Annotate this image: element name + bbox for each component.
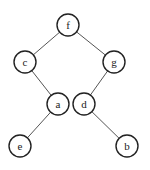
node-label: g	[111, 56, 117, 68]
node-f: f	[57, 14, 79, 36]
node-label: c	[23, 56, 28, 68]
edges	[20, 25, 127, 146]
node-label: b	[124, 140, 130, 152]
node-e: e	[9, 135, 31, 157]
node-d: d	[73, 93, 95, 115]
node-c: c	[14, 51, 36, 73]
node-label: d	[81, 98, 87, 110]
node-label: f	[66, 19, 70, 31]
node-label: e	[18, 140, 23, 152]
tree-diagram: f c g a d e b	[0, 0, 150, 170]
node-g: g	[103, 51, 125, 73]
node-b: b	[116, 135, 138, 157]
node-a: a	[47, 93, 69, 115]
node-label: a	[56, 98, 61, 110]
